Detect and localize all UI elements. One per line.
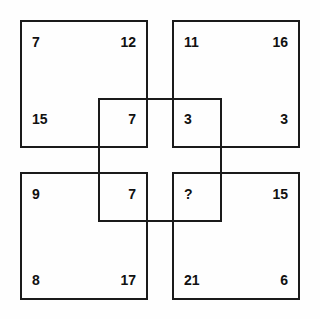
number-bottom-right-square-top-right: 15	[184, 187, 288, 201]
number-top-left-square-bottom-right: 7	[32, 112, 136, 126]
number-bottom-right-square-bottom-right: 6	[184, 273, 288, 287]
number-top-right-square-bottom-right: 3	[184, 112, 288, 126]
number-bottom-left-square-top-right: 7	[32, 187, 136, 201]
puzzle-canvas: 7 12 15 7 11 16 3 3 9 7 8 17 ? 15 21 6	[0, 0, 320, 319]
number-bottom-left-square-bottom-right: 17	[32, 273, 136, 287]
number-top-right-square-top-right: 16	[184, 35, 288, 49]
number-top-left-square-top-right: 12	[32, 35, 136, 49]
